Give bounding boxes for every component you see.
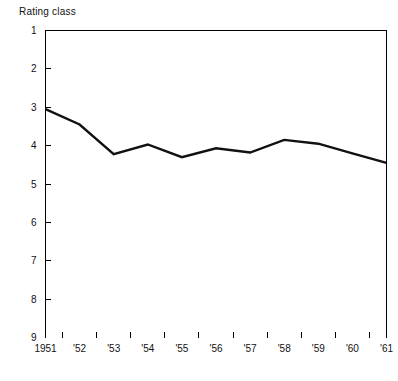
y-tick-label: 7	[31, 255, 37, 266]
x-axis-tick-marks	[63, 332, 370, 338]
y-tick-label: 6	[31, 217, 37, 228]
y-tick-label: 8	[31, 294, 37, 305]
x-tick-label: '59	[312, 343, 325, 354]
y-tick-label: 3	[31, 102, 37, 113]
x-tick-label: '57	[244, 343, 257, 354]
x-tick-label: '58	[278, 343, 291, 354]
y-tick-label: 2	[31, 63, 37, 74]
x-tick-label: '55	[175, 343, 188, 354]
y-axis-tick-labels: 123456789	[31, 25, 37, 343]
y-tick-label: 9	[31, 332, 37, 343]
x-tick-label: 1951	[34, 343, 57, 354]
x-tick-label: '54	[141, 343, 154, 354]
rating-class-line-chart: Rating class 123456789 1951'52'53'54'55'…	[0, 0, 398, 381]
plot-frame	[46, 31, 387, 338]
x-tick-label: '61	[380, 343, 393, 354]
x-tick-label: '60	[346, 343, 359, 354]
x-axis-tick-labels: 1951'52'53'54'55'56'57'58'59'60'61	[34, 343, 393, 354]
plot-area: 123456789 1951'52'53'54'55'56'57'58'59'6…	[0, 0, 398, 381]
y-axis-tick-marks	[46, 69, 51, 299]
x-tick-label: '56	[209, 343, 222, 354]
rating-series-line	[46, 109, 387, 163]
x-tick-label: '52	[73, 343, 86, 354]
y-tick-label: 1	[31, 25, 37, 36]
x-tick-label: '53	[107, 343, 120, 354]
y-tick-label: 5	[31, 179, 37, 190]
y-tick-label: 4	[31, 140, 37, 151]
